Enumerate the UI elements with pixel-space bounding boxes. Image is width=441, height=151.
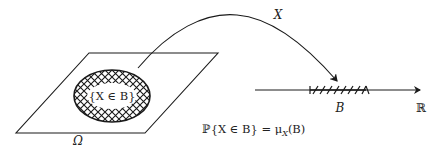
probability-formula: ℙ{X ∈ B} = μX(B): [202, 122, 305, 138]
diagram-canvas: {X ∈ B} X B ℝ Ω ℙ{X ∈ B} = μX(B): [0, 0, 441, 151]
borel-set-label: B: [335, 101, 345, 115]
real-line-label: ℝ: [416, 101, 427, 115]
sample-space-label: Ω: [72, 134, 83, 148]
mapping-curve: [138, 15, 337, 81]
svg-text:ℙ{X ∈ B} = μX(B): ℙ{X ∈ B} = μX(B): [202, 122, 305, 138]
borel-set-hatch: [310, 86, 369, 94]
mapping-label: X: [273, 8, 283, 22]
formula-tail: (B): [288, 122, 305, 136]
formula-main: ℙ{X ∈ B} = μ: [202, 122, 283, 136]
event-label: {X ∈ B}: [88, 89, 135, 103]
random-variable-diagram: {X ∈ B} X B ℝ Ω ℙ{X ∈ B} = μX(B): [0, 0, 441, 151]
